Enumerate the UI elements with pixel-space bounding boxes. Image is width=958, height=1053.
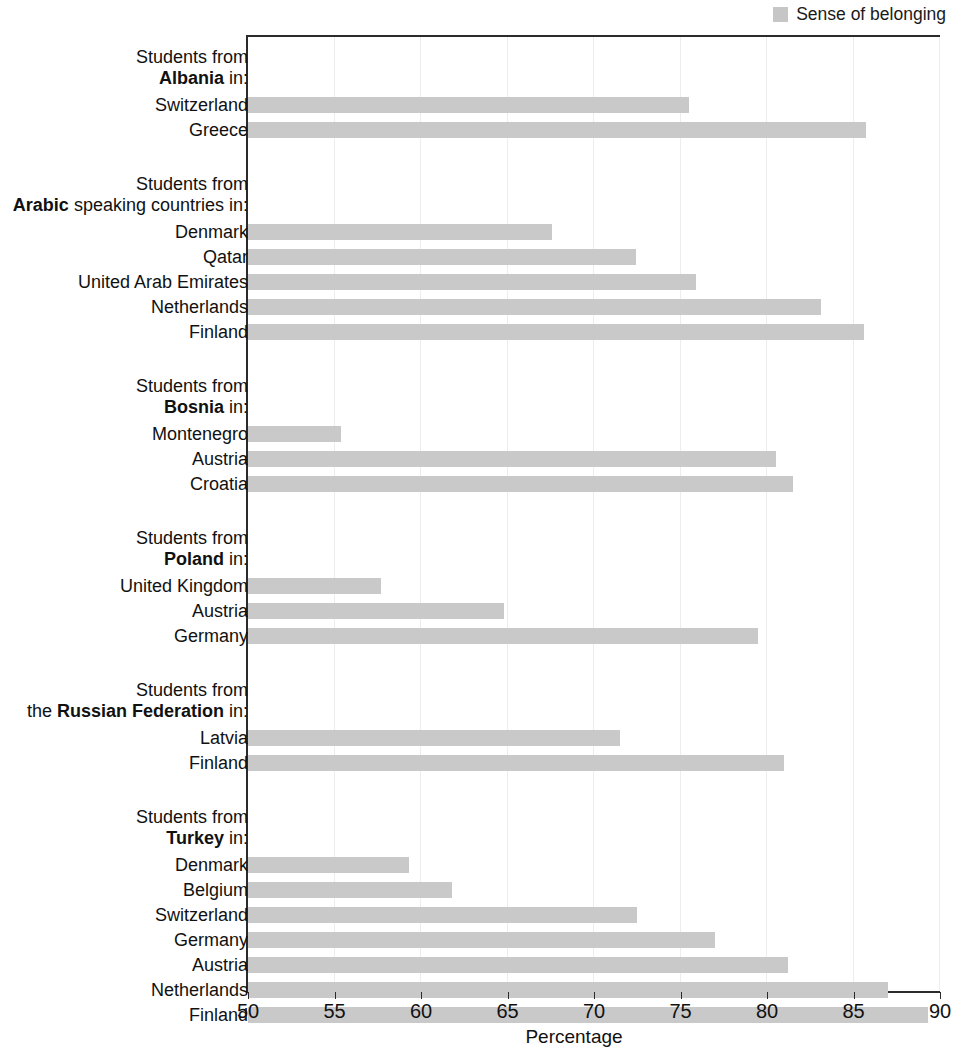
bar-sense-of-belonging [248,882,452,898]
group-origin-name: Turkey [166,828,224,848]
bar-row: Switzerland [0,94,958,116]
bar-sense-of-belonging [248,857,409,873]
bar-sense-of-belonging [248,932,715,948]
x-tick-80 [767,992,768,999]
bar-sense-of-belonging [248,451,776,467]
bar-row: Austria [0,954,958,976]
group-heading-line2: Turkey in: [0,827,248,849]
bar-row-label: Netherlands [0,979,248,1001]
x-tick-90 [940,992,941,999]
bar-row: Denmark [0,854,958,876]
bar-sense-of-belonging [248,578,381,594]
bar-sense-of-belonging [248,249,636,265]
group-heading-line1: Students from [0,527,248,549]
x-tick-label-55: 55 [323,1000,345,1023]
bar-sense-of-belonging [248,224,552,240]
x-tick-label-75: 75 [669,1000,691,1023]
group-heading-line1: Students from [0,375,248,397]
bar-sense-of-belonging [248,324,864,340]
bar-row-label: Denmark [0,221,248,243]
bar-row: Latvia [0,727,958,749]
gridline-85 [853,36,854,992]
bar-sense-of-belonging [248,957,788,973]
bar-row-label: Austria [0,600,248,622]
plot-area [247,36,940,992]
group-heading-line2: Albania in: [0,67,248,89]
bar-row: Finland [0,1004,958,1026]
x-tick-50 [248,992,249,999]
bar-sense-of-belonging [248,628,758,644]
group-origin-name: Russian Federation [57,701,224,721]
x-tick-75 [681,992,682,999]
horizontal-bar-chart: Students fromAlbania in:SwitzerlandGreec… [0,0,958,1053]
bar-sense-of-belonging [248,274,696,290]
bar-row: Belgium [0,879,958,901]
x-tick-70 [594,992,595,999]
bar-row-label: Germany [0,929,248,951]
bar-row: Finland [0,321,958,343]
bar-row: Germany [0,625,958,647]
bar-row-label: Finland [0,752,248,774]
x-tick-label-80: 80 [756,1000,778,1023]
x-tick-65 [508,992,509,999]
bar-row-label: Finland [0,321,248,343]
bar-sense-of-belonging [248,299,821,315]
plot-top-border [246,35,940,37]
bar-row: Croatia [0,473,958,495]
bar-row-label: Belgium [0,879,248,901]
bar-row-label: Switzerland [0,94,248,116]
bar-row-label: Greece [0,119,248,141]
bar-sense-of-belonging [248,476,793,492]
group-origin-name: Albania [159,68,224,88]
bar-row: Netherlands [0,296,958,318]
bar-row: Austria [0,600,958,622]
bar-sense-of-belonging [248,755,784,771]
bar-row-label: Germany [0,625,248,647]
bar-row-label: Latvia [0,727,248,749]
x-tick-label-65: 65 [496,1000,518,1023]
bar-row: Denmark [0,221,958,243]
bar-row-label: Netherlands [0,296,248,318]
bar-sense-of-belonging [248,603,504,619]
bar-row-label: United Kingdom [0,575,248,597]
bar-sense-of-belonging [248,426,341,442]
bar-row-label: Montenegro [0,423,248,445]
bar-row-label: Switzerland [0,904,248,926]
gridline-60 [420,36,421,992]
bar-row: United Arab Emirates [0,271,958,293]
bar-row-label: Denmark [0,854,248,876]
group-heading-line2: Arabic speaking countries in: [0,194,248,216]
group-heading-line1: Students from [0,806,248,828]
group-heading-line1: Students from [0,679,248,701]
group-heading-line1: Students from [0,46,248,68]
x-tick-55 [335,992,336,999]
x-tick-label-60: 60 [410,1000,432,1023]
bar-sense-of-belonging [248,122,866,138]
bar-row: Greece [0,119,958,141]
bar-row: Netherlands [0,979,958,1001]
x-tick-label-50: 50 [237,1000,259,1023]
bar-row: Germany [0,929,958,951]
bar-row: Switzerland [0,904,958,926]
x-axis-title: Percentage [0,1026,958,1048]
gridline-65 [507,36,508,992]
x-axis-title-label: Percentage [525,1026,622,1047]
bar-sense-of-belonging [248,907,637,923]
x-tick-85 [854,992,855,999]
group-heading-line2: Poland in: [0,548,248,570]
bar-row-label: Austria [0,448,248,470]
gridline-80 [766,36,767,992]
bar-row: Austria [0,448,958,470]
bar-sense-of-belonging [248,982,888,998]
bar-row-label: Qatar [0,246,248,268]
bar-row-label: Austria [0,954,248,976]
x-tick-60 [421,992,422,999]
bar-row: Montenegro [0,423,958,445]
group-origin-name: Poland [164,549,224,569]
gridline-90 [939,36,940,992]
group-origin-name: Bosnia [164,397,224,417]
x-tick-label-70: 70 [583,1000,605,1023]
x-tick-label-90: 90 [929,1000,951,1023]
bar-sense-of-belonging [248,730,620,746]
group-heading-line1: Students from [0,173,248,195]
